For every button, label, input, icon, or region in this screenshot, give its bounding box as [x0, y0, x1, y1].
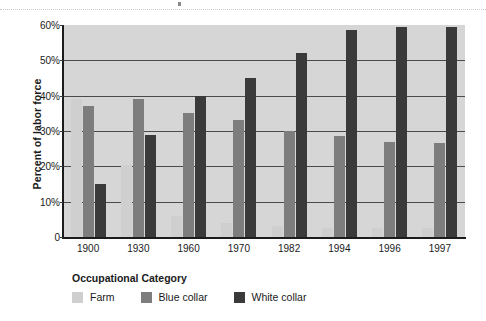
x-tick-label: 1994: [328, 243, 350, 254]
x-tick-label: 1982: [278, 243, 300, 254]
bar-group-1960: [171, 25, 206, 237]
legend-swatch-icon: [234, 292, 245, 303]
x-axis-line: [62, 237, 466, 239]
legend-label: White collar: [252, 291, 307, 303]
y-tick-label: 20%: [2, 161, 60, 172]
y-tick-label: 0: [2, 232, 60, 243]
x-tick-label: 1960: [178, 243, 200, 254]
bar-1997-blue-collar[interactable]: [434, 143, 445, 237]
y-tick-mark: [60, 237, 63, 238]
bar-group-1970: [221, 25, 256, 237]
bars-layer: [63, 25, 465, 237]
legend-item-blue-collar[interactable]: Blue collar: [141, 291, 208, 303]
bar-1930-blue-collar[interactable]: [133, 99, 144, 237]
x-tick-label: 1970: [228, 243, 250, 254]
legend-label: Farm: [90, 291, 115, 303]
legend-title: Occupational Category: [72, 272, 472, 284]
bar-1960-white-collar[interactable]: [195, 96, 206, 237]
bar-1996-blue-collar[interactable]: [384, 142, 395, 237]
top-artifact-mark: [178, 2, 181, 6]
bar-group-1930: [121, 25, 156, 237]
x-tick-label: 1996: [379, 243, 401, 254]
x-tick-label: 1900: [77, 243, 99, 254]
bar-1996-farm[interactable]: [372, 228, 383, 237]
bar-1994-blue-collar[interactable]: [334, 136, 345, 237]
legend-items: FarmBlue collarWhite collar: [72, 291, 472, 303]
bar-1900-farm[interactable]: [71, 99, 82, 237]
y-axis-ticks: 010%20%30%40%50%60%: [0, 0, 60, 321]
bar-1994-farm[interactable]: [322, 228, 333, 237]
bar-1930-white-collar[interactable]: [145, 135, 156, 237]
bar-1960-blue-collar[interactable]: [183, 113, 194, 237]
x-tick-label: 1997: [429, 243, 451, 254]
y-tick-label: 10%: [2, 196, 60, 207]
legend-item-white-collar[interactable]: White collar: [234, 291, 307, 303]
bar-group-1900: [71, 25, 106, 237]
x-tick-label: 1930: [127, 243, 149, 254]
legend-swatch-icon: [141, 292, 152, 303]
bar-1982-blue-collar[interactable]: [284, 131, 295, 237]
legend: Occupational Category FarmBlue collarWhi…: [72, 272, 472, 303]
bar-1900-blue-collar[interactable]: [83, 106, 94, 237]
bar-1930-farm[interactable]: [121, 165, 132, 237]
bar-1996-white-collar[interactable]: [396, 27, 407, 237]
bar-1994-white-collar[interactable]: [346, 30, 357, 237]
bar-1970-white-collar[interactable]: [245, 78, 256, 237]
bar-1960-farm[interactable]: [171, 216, 182, 237]
chart-page: Percent of labor force 010%20%30%40%50%6…: [0, 0, 486, 321]
y-tick-label: 60%: [2, 20, 60, 31]
bar-1900-white-collar[interactable]: [95, 184, 106, 237]
legend-item-farm[interactable]: Farm: [72, 291, 115, 303]
y-tick-label: 30%: [2, 126, 60, 137]
top-divider: [0, 9, 486, 11]
bar-group-1996: [372, 25, 407, 237]
bar-1997-farm[interactable]: [422, 228, 433, 237]
bar-group-1982: [272, 25, 307, 237]
bar-1970-blue-collar[interactable]: [233, 120, 244, 237]
bar-1982-farm[interactable]: [272, 226, 283, 237]
bar-group-1994: [322, 25, 357, 237]
bar-1997-white-collar[interactable]: [446, 27, 457, 237]
y-tick-label: 50%: [2, 55, 60, 66]
bar-group-1997: [422, 25, 457, 237]
legend-label: Blue collar: [159, 291, 208, 303]
legend-swatch-icon: [72, 292, 83, 303]
bar-1982-white-collar[interactable]: [296, 53, 307, 237]
y-tick-label: 40%: [2, 90, 60, 101]
bar-1970-farm[interactable]: [221, 223, 232, 237]
